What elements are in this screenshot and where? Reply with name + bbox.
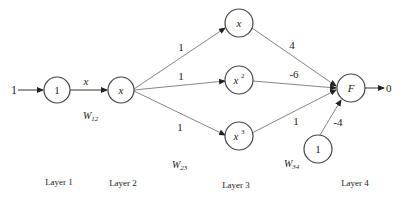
neural-network-diagram: 1 1 x x x 2 x 3 F 1 0 x 1 1 1 4 -6 1 -4 … bbox=[0, 0, 403, 200]
node-layer2-label: x bbox=[118, 84, 124, 96]
edge-l2-bot-label: 1 bbox=[177, 121, 183, 133]
node-layer3-bot bbox=[225, 122, 253, 150]
edge-l2-top-label: 1 bbox=[178, 41, 184, 53]
weight-w34: W34 bbox=[284, 158, 300, 171]
node-layer3-bot-sup: 3 bbox=[241, 128, 245, 136]
node-layer3-mid-sup: 2 bbox=[241, 72, 245, 80]
weight-w23: W23 bbox=[172, 159, 188, 172]
node-layer1-label: 1 bbox=[54, 84, 60, 96]
node-layer3-mid bbox=[225, 66, 253, 94]
edge-l1-l2-label: x bbox=[83, 75, 89, 87]
weight-w12: W12 bbox=[83, 110, 99, 123]
node-layer3-mid-label: x bbox=[233, 74, 239, 86]
node-layer3-bot-label: x bbox=[233, 130, 239, 142]
input-label: 1 bbox=[11, 83, 17, 97]
layer-1-label: Layer 1 bbox=[45, 177, 73, 187]
layer-2-label: Layer 2 bbox=[109, 178, 137, 188]
edge-bot-f-label: 1 bbox=[293, 115, 299, 127]
node-layer4-label: F bbox=[347, 82, 355, 94]
output-label: 0 bbox=[386, 82, 392, 94]
edge-l2-mid bbox=[134, 81, 225, 90]
node-bias-label: 1 bbox=[315, 143, 321, 155]
layer-4-label: Layer 4 bbox=[341, 178, 369, 188]
edge-bias-f-label: -4 bbox=[333, 116, 343, 128]
edge-mid-f bbox=[253, 81, 336, 88]
layer-3-label: Layer 3 bbox=[222, 180, 250, 190]
node-layer3-top-label: x bbox=[236, 17, 242, 29]
edge-l2-mid-label: 1 bbox=[178, 70, 184, 82]
edge-mid-f-label: -6 bbox=[289, 68, 299, 80]
edge-top-f-label: 4 bbox=[289, 39, 295, 51]
